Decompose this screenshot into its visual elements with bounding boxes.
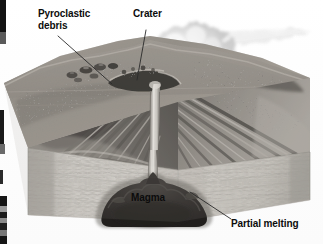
label-magma: Magma (131, 192, 165, 204)
label-partial-melting: Partial melting (231, 218, 298, 230)
volcano-diagram-illustration (0, 0, 323, 244)
label-pyroclastic-debris: Pyroclastic debris (38, 8, 90, 31)
label-crater: Crater (133, 8, 162, 20)
volcano-diagram-figure: Pyroclastic debris Crater Magma Partial … (0, 0, 323, 244)
